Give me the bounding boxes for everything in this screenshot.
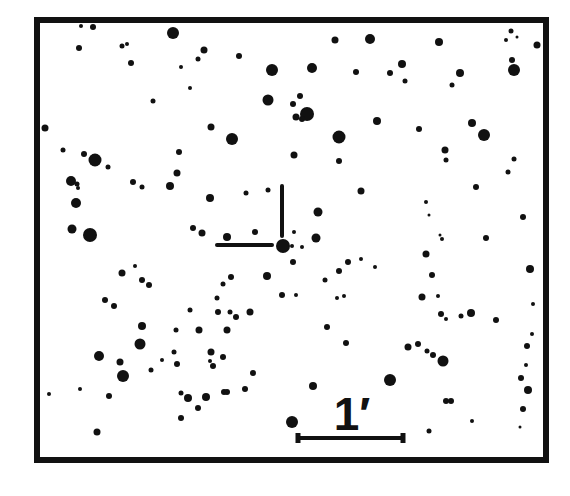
star [373,265,377,269]
star [263,95,274,106]
star [61,148,66,153]
star [125,42,129,46]
star [223,233,231,241]
finder-chart: 1′ [0,0,570,496]
star [439,234,442,237]
star [435,38,443,46]
star [78,387,82,391]
star [353,69,359,75]
star [336,268,342,274]
star [294,293,298,297]
star [423,251,430,258]
star [359,257,363,261]
star [307,63,317,73]
star [47,392,51,396]
star [83,228,97,242]
star [81,151,87,157]
star [312,234,321,243]
star [509,57,515,63]
star [220,354,226,360]
star [293,114,300,121]
star [221,282,226,287]
star [444,317,448,321]
star [149,368,154,373]
star [111,303,117,309]
star [516,36,519,39]
star [172,350,177,355]
star [266,64,278,76]
star [166,182,174,190]
star [117,370,129,382]
star [506,170,511,175]
star [335,296,339,300]
star [215,296,220,301]
star [534,42,541,49]
star [188,308,193,313]
star [188,86,192,90]
star [130,179,136,185]
star [509,29,514,34]
star [266,188,271,193]
star [90,24,96,30]
star [323,278,328,283]
star [146,282,152,288]
star [424,200,428,204]
star [151,99,156,104]
star [76,186,80,190]
star [167,27,179,39]
star [456,69,464,77]
star [252,229,258,235]
star [519,426,522,429]
star [403,79,408,84]
star [208,349,215,356]
star [102,297,108,303]
star [66,176,76,186]
star [184,394,192,402]
star [174,361,180,367]
star [299,116,305,122]
star [373,117,381,125]
star [524,363,528,367]
star [438,356,449,367]
star [444,158,449,163]
star [179,391,184,396]
star [405,344,412,351]
star [493,317,499,323]
star [140,185,145,190]
star [290,101,296,107]
star [76,45,82,51]
star [174,170,181,177]
star [343,340,349,346]
star [290,244,294,248]
star [450,83,455,88]
star [470,419,474,423]
star [120,44,125,49]
star [309,382,317,390]
star [263,272,271,280]
star [176,149,182,155]
star [42,125,49,132]
star [526,265,534,273]
star [174,328,179,333]
star [531,302,535,306]
star [106,165,111,170]
star [429,272,435,278]
star [419,294,426,301]
star [242,386,248,392]
star [297,93,303,99]
star [425,349,430,354]
star [210,363,216,369]
star [75,182,80,187]
star [467,309,475,317]
star [345,259,351,265]
star [236,53,242,59]
star [524,386,532,394]
star [440,237,444,241]
star [387,70,393,76]
star [206,194,214,202]
star [94,429,101,436]
star [520,214,526,220]
star [279,292,285,298]
star [250,370,256,376]
star [160,358,164,362]
